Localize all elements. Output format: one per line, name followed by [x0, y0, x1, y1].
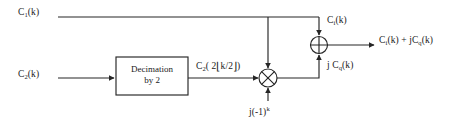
input-label-c1: C1(k) [18, 8, 39, 18]
signal-label-rotator: j(-1)k [249, 108, 270, 118]
signal-label-rotator-text: j(-1) [249, 107, 266, 117]
signal-label-output-sub2: q [418, 39, 421, 46]
signal-label-ci-tail: (k) [335, 15, 346, 25]
signal-label-jcq-base: C [332, 60, 338, 70]
signal-label-decimated-tail: ) [237, 61, 240, 71]
signal-label-output-mid: (k) + j [387, 35, 412, 45]
signal-label-decimated-sub: 2 [202, 65, 205, 72]
input-label-c2-tail: (k) [28, 69, 39, 79]
signal-label-jcq: j Cq(k) [327, 61, 353, 71]
signal-label-ci: Ci(k) [327, 16, 347, 26]
floor-bracket-open-icon: ⌊ [216, 60, 220, 72]
floor-bracket-close-icon: ⌋ [233, 60, 237, 72]
diagram-canvas: C1(k) C2(k) Decimation by 2 C2( 2⌊k/2⌋) … [0, 0, 461, 129]
input-label-c1-tail: (k) [28, 7, 39, 17]
signal-label-decimated: C2( 2⌊k/2⌋) [196, 60, 240, 72]
decimation-block-label: Decimation by 2 [116, 64, 188, 86]
signal-label-decimated-inner: k/2 [221, 61, 233, 71]
wire-multiplier-to-adder [277, 55, 319, 78]
signal-label-jcq-sub: q [339, 64, 342, 71]
input-label-c2: C2(k) [18, 70, 39, 80]
signal-label-output-tail: (k) [422, 35, 433, 45]
signal-label-decimated-open: ( 2 [206, 61, 217, 71]
multiplier-cross [262, 72, 275, 85]
decimation-block-line2: by 2 [116, 75, 188, 86]
signal-label-jcq-tail: (k) [342, 60, 353, 70]
signal-label-output: Ci(k) + jCq(k) [379, 36, 433, 46]
decimation-block-line1: Decimation [116, 64, 188, 75]
input-label-c2-sub: 2 [24, 73, 27, 80]
input-label-c1-sub: 1 [24, 11, 27, 18]
signal-label-rotator-sup: k [266, 105, 269, 112]
